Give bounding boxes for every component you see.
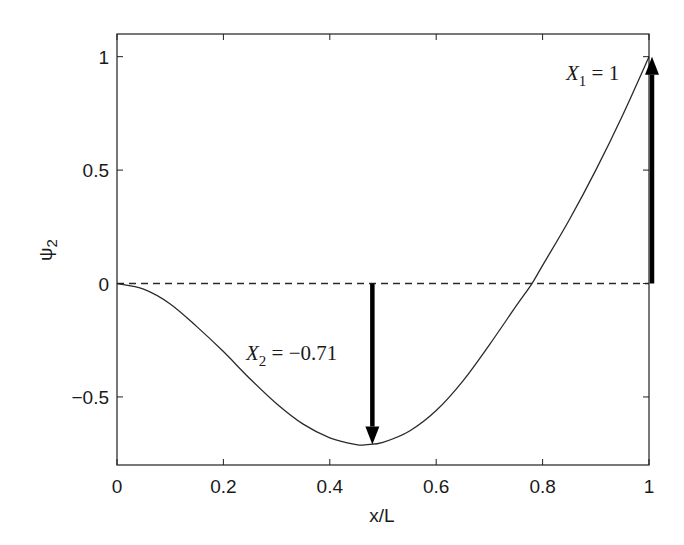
annotation-label: X2 = −0.71 xyxy=(245,341,337,369)
y-tick-label: 1 xyxy=(98,47,109,68)
x-axis-label: x/L xyxy=(369,505,394,526)
y-tick-label: −0.5 xyxy=(71,387,109,408)
y-tick-label: 0 xyxy=(98,274,109,295)
plot-area xyxy=(117,57,649,445)
mode-shape-chart: 00.20.40.60.81−0.500.51 X2 = −0.71X1 = 1… xyxy=(0,0,684,545)
x-tick-label: 0 xyxy=(112,476,123,497)
x-tick-label: 0.6 xyxy=(423,476,449,497)
x-tick-label: 1 xyxy=(644,476,655,497)
mode-shape-curve xyxy=(117,57,649,445)
axes-box xyxy=(117,34,649,465)
arrowhead-icon xyxy=(365,427,379,445)
x-tick-label: 0.2 xyxy=(210,476,236,497)
x-tick-label: 0.4 xyxy=(317,476,344,497)
y-axis-label: ψ2 xyxy=(35,239,60,261)
svg-text:ψ2: ψ2 xyxy=(35,239,60,261)
x-tick-label: 0.8 xyxy=(529,476,555,497)
axes: 00.20.40.60.81−0.500.51 xyxy=(71,34,654,497)
y-tick-label: 0.5 xyxy=(83,160,109,181)
annotation-label: X1 = 1 xyxy=(565,61,619,89)
annotations: X2 = −0.71X1 = 1 xyxy=(245,57,659,445)
